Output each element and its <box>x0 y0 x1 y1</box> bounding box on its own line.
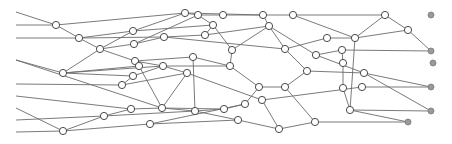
edge <box>16 12 56 25</box>
graph-node <box>226 62 233 69</box>
graph-node <box>129 72 136 79</box>
edge <box>293 15 355 38</box>
edge <box>16 116 104 120</box>
edge <box>230 66 259 87</box>
graph-node <box>52 21 59 28</box>
edge <box>262 100 279 129</box>
edge <box>232 26 269 50</box>
edge <box>100 49 135 61</box>
edge <box>16 131 63 132</box>
sink-node <box>428 48 434 54</box>
edge <box>195 111 238 120</box>
graph-node <box>404 26 411 33</box>
edge <box>131 108 162 109</box>
edge <box>285 49 307 71</box>
edge <box>104 111 195 116</box>
graph-node <box>234 116 241 123</box>
edge <box>350 38 355 110</box>
node-layer <box>52 9 411 134</box>
graph-node <box>59 127 66 134</box>
edge <box>63 124 150 131</box>
edge <box>164 37 285 49</box>
graph-node <box>275 125 282 132</box>
edge <box>307 71 364 73</box>
graph-node <box>281 83 288 90</box>
graph-node <box>360 69 367 76</box>
graph-node <box>255 83 262 90</box>
edge <box>269 26 316 55</box>
graph-node <box>59 69 66 76</box>
graph-node <box>220 105 227 112</box>
graph-node <box>259 11 266 18</box>
graph-svg <box>0 0 452 144</box>
edge <box>279 122 315 129</box>
graph-node <box>127 105 134 112</box>
edge <box>79 31 133 38</box>
graph-node <box>183 69 190 76</box>
graph-node <box>312 51 319 58</box>
edge <box>193 57 230 66</box>
graph-node <box>194 11 201 18</box>
edge <box>213 25 232 50</box>
graph-node <box>159 62 166 69</box>
sink-node <box>428 108 434 114</box>
graph-node <box>265 22 272 29</box>
edge <box>408 30 431 51</box>
graph-node <box>96 45 103 52</box>
edge <box>16 96 131 109</box>
graph-node <box>346 106 353 113</box>
graph-node <box>129 27 136 34</box>
graph-node <box>323 34 330 41</box>
edge <box>16 84 122 85</box>
graph-node <box>146 120 153 127</box>
edge <box>350 110 431 111</box>
edge-layer <box>16 12 431 132</box>
graph-node <box>201 31 208 38</box>
edge <box>285 87 315 122</box>
graph-node <box>191 107 198 114</box>
edge <box>150 120 238 124</box>
graph-node <box>338 46 345 53</box>
sink-node <box>430 60 436 66</box>
graph-node <box>75 34 82 41</box>
network-diagram <box>0 0 452 144</box>
edge <box>364 73 431 111</box>
graph-node <box>135 62 142 69</box>
edge <box>56 13 185 25</box>
graph-node <box>281 45 288 52</box>
graph-node <box>358 83 365 90</box>
graph-node <box>209 21 216 28</box>
edge <box>63 49 100 73</box>
edge <box>350 110 408 122</box>
sink-node <box>405 119 411 125</box>
edge <box>355 30 408 38</box>
graph-node <box>219 11 226 18</box>
edge <box>63 116 104 131</box>
graph-node <box>118 81 125 88</box>
graph-node <box>228 46 235 53</box>
graph-node <box>289 11 296 18</box>
graph-node <box>181 9 188 16</box>
graph-node <box>351 34 358 41</box>
graph-node <box>311 118 318 125</box>
graph-node <box>258 96 265 103</box>
edge <box>135 57 193 61</box>
graph-node <box>100 112 107 119</box>
graph-node <box>160 33 167 40</box>
edge <box>364 73 431 87</box>
edge <box>238 120 279 129</box>
edge <box>63 73 133 76</box>
graph-node <box>189 53 196 60</box>
graph-node <box>158 104 165 111</box>
graph-node <box>381 11 388 18</box>
edge <box>162 73 187 108</box>
edge <box>187 73 262 100</box>
edge <box>134 37 164 44</box>
sink-node <box>428 12 434 18</box>
edge <box>262 87 362 100</box>
graph-node <box>303 67 310 74</box>
edge <box>193 57 195 111</box>
edge <box>342 50 431 51</box>
edge <box>385 15 408 30</box>
graph-node <box>339 84 346 91</box>
